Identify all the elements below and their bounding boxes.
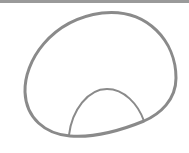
inner-arch-shape <box>69 89 144 135</box>
drawing-canvas <box>0 0 189 153</box>
outer-loop-shape <box>25 13 176 137</box>
